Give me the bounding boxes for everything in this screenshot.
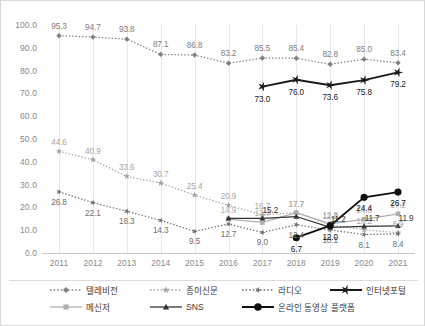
data-label: 12.4 xyxy=(289,230,305,239)
legend-marker-icon xyxy=(149,284,183,296)
data-label: 14.9 xyxy=(221,206,237,215)
data-label: 18.3 xyxy=(119,217,135,226)
x-axis-tick: 2021 xyxy=(388,258,407,268)
data-label: 26.8 xyxy=(51,197,67,206)
data-label: 30.7 xyxy=(153,170,169,179)
x-axis-tick: 2015 xyxy=(185,258,204,268)
chart-screenshot: 0.010.020.030.040.050.060.070.080.090.01… xyxy=(0,0,425,326)
y-axis-tick: 0.0 xyxy=(25,248,37,258)
data-label: 22.1 xyxy=(85,208,101,217)
legend-label: 라디오 xyxy=(278,284,302,296)
data-point xyxy=(158,217,164,223)
x-axis-tick: 2016 xyxy=(219,258,238,268)
x-axis-tick: 2012 xyxy=(83,258,102,268)
data-label: 94.7 xyxy=(85,23,101,32)
data-label: 83.4 xyxy=(390,48,406,57)
y-axis-tick: 80.0 xyxy=(20,66,37,76)
x-axis-tick: 2018 xyxy=(287,258,306,268)
data-label: 85.5 xyxy=(255,44,271,53)
data-label: 24.4 xyxy=(356,204,372,213)
data-point xyxy=(157,180,163,186)
plot-area: 95.394.793.887.186.883.285.585.482.885.0… xyxy=(42,25,415,254)
data-point xyxy=(294,56,299,61)
y-axis-tick: 90.0 xyxy=(20,43,37,53)
data-point xyxy=(124,208,130,214)
data-label: 11.9 xyxy=(399,213,414,222)
legend-marker-icon xyxy=(329,284,363,296)
legend-label: 온라인 동영상 플랫폼 xyxy=(278,301,355,313)
legend-marker-icon xyxy=(241,284,275,296)
data-label: 9.5 xyxy=(189,237,200,246)
data-point xyxy=(192,52,197,57)
legend-item[interactable]: 종이신문 xyxy=(149,281,218,298)
data-point xyxy=(258,82,267,92)
x-axis: 2011201220132014201520162017201820192020… xyxy=(42,257,415,271)
data-point xyxy=(362,232,368,238)
data-point xyxy=(260,220,265,225)
y-axis-tick: 100.0 xyxy=(15,20,37,30)
legend-item[interactable]: 온라인 동영상 플랫폼 xyxy=(241,298,355,315)
chart-legend: 텔레비전종이신문라디오인터넷포털 메신저SNS온라인 동영상 플랫폼 xyxy=(9,280,418,322)
y-axis-tick: 30.0 xyxy=(20,180,37,190)
x-axis-tick: 2017 xyxy=(253,258,272,268)
data-label: 12.0 xyxy=(322,232,338,241)
legend-label: 메신저 xyxy=(86,301,110,313)
data-point xyxy=(260,55,265,60)
y-axis-tick: 70.0 xyxy=(20,88,37,98)
data-label: 8.4 xyxy=(392,239,403,248)
data-label: 40.9 xyxy=(85,146,101,155)
data-point xyxy=(56,148,62,154)
data-label: 73.6 xyxy=(322,93,338,102)
x-axis-tick: 2011 xyxy=(50,258,68,268)
legend-item[interactable]: 인터넷포털 xyxy=(329,281,406,298)
x-axis-tick: 2019 xyxy=(321,258,340,268)
data-label: 15.2 xyxy=(263,206,279,215)
legend-item[interactable]: 라디오 xyxy=(241,281,302,298)
data-label: 26.7 xyxy=(390,199,406,208)
data-label: 17.7 xyxy=(289,199,305,208)
legend-marker-icon xyxy=(49,301,83,313)
legend-label: 인터넷포털 xyxy=(366,284,406,296)
data-label: 75.8 xyxy=(356,88,372,97)
data-point xyxy=(361,194,368,201)
data-point xyxy=(90,156,96,162)
data-point xyxy=(226,61,231,66)
legend-item[interactable]: 텔레비전 xyxy=(49,281,118,298)
data-point xyxy=(158,52,163,57)
x-axis-tick: 2014 xyxy=(151,258,170,268)
y-axis: 0.010.020.030.040.050.060.070.080.090.01… xyxy=(1,25,37,254)
y-axis-tick: 20.0 xyxy=(20,202,37,212)
data-label: 85.0 xyxy=(356,45,372,54)
data-point xyxy=(124,36,129,41)
data-label: 82.8 xyxy=(322,50,338,59)
data-label: 95.3 xyxy=(51,21,67,30)
legend-label: 종이신문 xyxy=(186,284,218,296)
data-point xyxy=(395,60,400,65)
legend-label: 텔레비전 xyxy=(86,284,118,296)
data-label: 14.3 xyxy=(153,226,169,235)
data-label: 20.9 xyxy=(221,192,237,201)
data-label: 86.8 xyxy=(187,41,203,50)
y-axis-tick: 60.0 xyxy=(20,111,37,121)
data-point xyxy=(56,189,62,195)
data-label: 11.7 xyxy=(365,214,380,223)
legend-item[interactable]: SNS xyxy=(149,298,204,315)
legend-marker-icon xyxy=(149,301,183,313)
data-label: 73.0 xyxy=(255,94,271,103)
data-label: 33.6 xyxy=(119,163,135,172)
data-label: 11.2 xyxy=(331,215,346,224)
data-label: 8.1 xyxy=(359,240,370,249)
data-label: 83.2 xyxy=(221,49,237,58)
data-label: 87.1 xyxy=(153,40,169,49)
data-label: 9.0 xyxy=(257,238,268,247)
data-point xyxy=(226,221,232,227)
data-label: 76.0 xyxy=(289,87,305,96)
legend-item[interactable]: 메신저 xyxy=(49,298,110,315)
data-point xyxy=(394,189,401,196)
data-label: 25.4 xyxy=(187,182,203,191)
data-point xyxy=(294,222,300,228)
data-label: 93.8 xyxy=(119,25,135,34)
data-point xyxy=(124,173,130,179)
data-label: 79.2 xyxy=(390,80,406,89)
data-point xyxy=(90,34,95,39)
